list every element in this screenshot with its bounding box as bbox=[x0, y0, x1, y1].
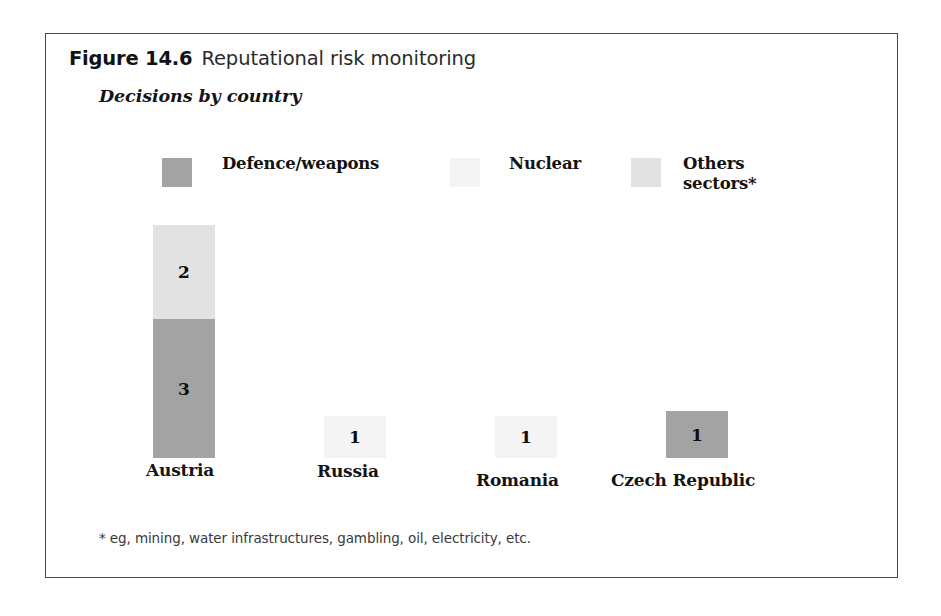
bar-value-label: 2 bbox=[178, 262, 190, 282]
figure-footnote: * eg, mining, water infrastructures, gam… bbox=[99, 530, 531, 546]
chart-plot-area: 23Austria1Russia1Romania1Czech Republic bbox=[46, 34, 897, 577]
bar-value-label: 1 bbox=[349, 427, 361, 447]
bar-segment: 1 bbox=[495, 416, 557, 458]
bar-value-label: 1 bbox=[520, 427, 532, 447]
bar-segment: 3 bbox=[153, 319, 215, 458]
bar-segment: 1 bbox=[324, 416, 386, 458]
category-label-romania: Romania bbox=[476, 470, 559, 490]
figure-frame: Figure 14.6Reputational risk monitoring … bbox=[45, 33, 898, 578]
category-label-russia: Russia bbox=[317, 461, 379, 481]
bar-segment: 1 bbox=[666, 411, 728, 458]
bar-value-label: 3 bbox=[178, 379, 190, 399]
bar-value-label: 1 bbox=[691, 425, 703, 445]
bar-segment: 2 bbox=[153, 225, 215, 319]
category-label-austria: Austria bbox=[146, 460, 214, 480]
category-label-czech-republic: Czech Republic bbox=[611, 470, 755, 490]
